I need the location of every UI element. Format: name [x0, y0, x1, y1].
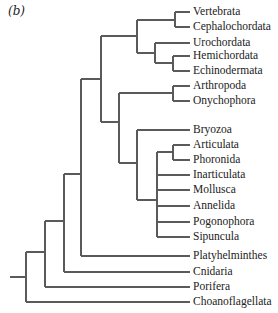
- tree-branches: [10, 12, 190, 302]
- leaf-label-cephalochordata: Cephalochordata: [193, 21, 271, 33]
- leaf-label-choanoflagellata: Choanoflagellata: [193, 296, 272, 308]
- leaf-label-porifera: Porifera: [193, 281, 230, 293]
- leaf-label-vertebrata: Vertebrata: [193, 6, 240, 17]
- leaf-label-arthropoda: Arthropoda: [193, 80, 246, 92]
- leaf-label-hemichordata: Hemichordata: [193, 50, 258, 62]
- leaf-label-pogonophora: Pogonophora: [193, 216, 254, 228]
- leaf-label-phoronida: Phoronida: [193, 154, 240, 166]
- leaf-label-annelida: Annelida: [193, 200, 235, 212]
- leaf-label-mollusca: Mollusca: [193, 184, 236, 196]
- leaf-label-cnidaria: Cnidaria: [193, 266, 233, 278]
- leaf-label-echinodermata: Echinodermata: [193, 65, 263, 77]
- leaf-label-bryozoa: Bryozoa: [193, 124, 232, 136]
- leaf-label-urochordata: Urochordata: [193, 37, 250, 49]
- leaf-label-onychophora: Onychophora: [193, 95, 256, 107]
- leaf-label-inarticulata: Inarticulata: [193, 169, 245, 181]
- leaf-label-platyhelminthes: Platyhelminthes: [193, 250, 267, 261]
- leaf-label-articulata: Articulata: [193, 139, 239, 151]
- leaf-label-sipuncula: Sipuncula: [193, 231, 239, 243]
